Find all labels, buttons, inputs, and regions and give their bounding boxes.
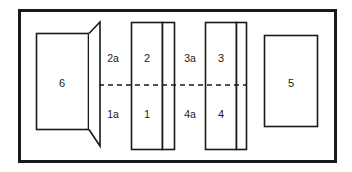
element-3-label: 3 xyxy=(218,52,224,64)
technical-diagram: 6 2 1 3 4 5 2a 1a 3a 4a xyxy=(0,0,352,172)
element-group-b: 3 4 xyxy=(206,23,247,150)
callout-1a-label: 1a xyxy=(107,108,119,120)
element-group-b-plate xyxy=(237,23,247,150)
diagram-canvas: 6 2 1 3 4 5 2a 1a 3a 4a xyxy=(0,0,352,172)
element-group-a-main xyxy=(132,23,163,150)
callout-2a-label: 2a xyxy=(107,52,119,64)
callout-3a-label: 3a xyxy=(184,52,196,64)
flared-horn-assembly: 6 xyxy=(37,22,101,146)
element-group-a: 2 1 xyxy=(132,23,175,150)
callout-4a-label: 4a xyxy=(184,108,196,120)
horn-label: 6 xyxy=(59,77,65,89)
element-group-a-plate xyxy=(163,23,175,150)
element-4-label: 4 xyxy=(218,108,224,120)
detector-block: 5 xyxy=(265,36,318,127)
element-group-b-main xyxy=(206,23,237,150)
detector-block-label: 5 xyxy=(288,77,294,89)
element-2-label: 2 xyxy=(144,52,150,64)
element-1-label: 1 xyxy=(144,108,150,120)
horn-flare xyxy=(89,22,100,146)
